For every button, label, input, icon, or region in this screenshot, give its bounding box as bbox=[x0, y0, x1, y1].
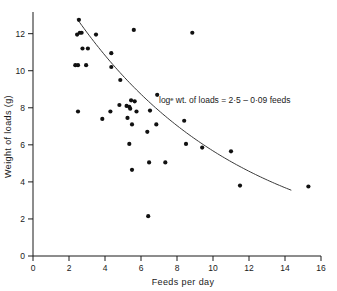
y-tick-label-8: 8 bbox=[20, 103, 25, 113]
data-point bbox=[127, 142, 131, 146]
data-point bbox=[182, 119, 186, 123]
data-point bbox=[108, 109, 112, 113]
data-point bbox=[80, 31, 84, 35]
data-point bbox=[130, 168, 134, 172]
data-point bbox=[147, 160, 151, 164]
data-point bbox=[184, 142, 188, 146]
data-point bbox=[77, 18, 81, 22]
y-tick-label-2: 2 bbox=[20, 214, 25, 224]
data-point bbox=[134, 109, 138, 113]
data-point bbox=[163, 160, 167, 164]
y-tick-label-4: 4 bbox=[20, 177, 25, 187]
regression-equation-annotation: logᵉ wt. of loads = 2·5 – 0·09 feeds bbox=[159, 95, 290, 105]
chart-canvas: 0246810121416024681012Feeds per dayWeigh… bbox=[0, 0, 337, 291]
y-tick-label-12: 12 bbox=[16, 29, 26, 39]
x-tick-label-2: 2 bbox=[67, 263, 72, 273]
data-point bbox=[76, 109, 80, 113]
x-tick-label-12: 12 bbox=[244, 263, 254, 273]
data-point bbox=[84, 63, 88, 67]
x-tick-label-4: 4 bbox=[103, 263, 108, 273]
data-point bbox=[130, 122, 134, 126]
data-point bbox=[76, 63, 80, 67]
data-point bbox=[133, 99, 137, 103]
data-point bbox=[109, 51, 113, 55]
y-tick-label-10: 10 bbox=[16, 66, 26, 76]
data-point bbox=[109, 65, 113, 69]
data-point bbox=[117, 103, 121, 107]
data-point bbox=[200, 146, 204, 150]
x-tick-label-16: 16 bbox=[316, 263, 326, 273]
data-point bbox=[118, 78, 122, 82]
data-point bbox=[86, 46, 90, 50]
x-tick-label-0: 0 bbox=[31, 263, 36, 273]
y-tick-label-0: 0 bbox=[20, 251, 25, 261]
data-point bbox=[128, 107, 132, 111]
data-point bbox=[132, 28, 136, 32]
x-tick-label-10: 10 bbox=[208, 263, 218, 273]
data-point bbox=[229, 149, 233, 153]
x-tick-label-6: 6 bbox=[139, 263, 144, 273]
y-axis-title: Weight of loads (g) bbox=[3, 95, 13, 178]
data-point bbox=[238, 184, 242, 188]
data-point bbox=[125, 116, 129, 120]
x-axis-title: Feeds per day bbox=[152, 277, 215, 287]
data-point bbox=[80, 46, 84, 50]
data-point bbox=[100, 117, 104, 121]
x-tick-label-14: 14 bbox=[280, 263, 290, 273]
x-tick-label-8: 8 bbox=[175, 263, 180, 273]
data-point bbox=[190, 31, 194, 35]
data-point bbox=[154, 122, 158, 126]
data-point bbox=[145, 130, 149, 134]
data-point bbox=[94, 33, 98, 37]
data-point bbox=[148, 108, 152, 112]
data-point bbox=[306, 184, 310, 188]
y-tick-label-6: 6 bbox=[20, 140, 25, 150]
data-point bbox=[129, 98, 133, 102]
scatter-plot-figure: 0246810121416024681012Feeds per dayWeigh… bbox=[0, 0, 337, 291]
data-point bbox=[146, 214, 150, 218]
